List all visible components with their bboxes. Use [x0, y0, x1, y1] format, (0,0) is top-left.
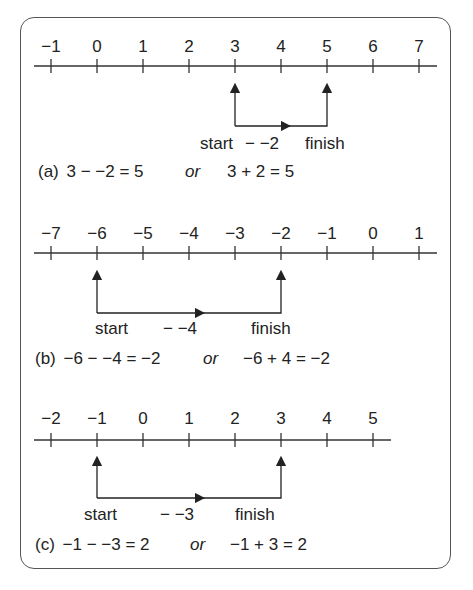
step-label: − −3: [160, 505, 194, 524]
tick-label: −2: [41, 409, 60, 428]
start-label: start: [200, 134, 233, 153]
tick-label: 7: [414, 37, 423, 56]
tick-label: 1: [414, 224, 423, 243]
panel-c: −2 −1 0 1 2 3 4 5 start − −3 finish (c) …: [34, 409, 391, 554]
caption-b: (b) −6 − −4 = −2 or −6 + 4 = −2: [35, 349, 330, 368]
tick-label: −1: [87, 409, 106, 428]
caption-expr2: −1 + 3 = 2: [230, 535, 307, 554]
caption-prefix: (b): [35, 349, 56, 368]
jump-arrow: [97, 461, 281, 498]
finish-label: finish: [235, 505, 275, 524]
caption-prefix: (c): [35, 535, 55, 554]
tick-label: 4: [276, 37, 285, 56]
tick-label: 1: [138, 37, 147, 56]
step-label: − −2: [245, 134, 279, 153]
panel-b: −7 −6 −5 −4 −3 −2 −1 0 1 start − −4 fini…: [34, 224, 437, 368]
finish-label: finish: [305, 134, 345, 153]
tick-label: −6: [87, 224, 106, 243]
caption-expr1: 3 − −2 = 5: [67, 162, 144, 181]
jump-arrow: [235, 88, 327, 126]
tick-label: 3: [276, 409, 285, 428]
tick-label: 3: [230, 37, 239, 56]
tick-label: 4: [322, 409, 331, 428]
caption-expr2: −6 + 4 = −2: [243, 349, 330, 368]
tick-label: 0: [368, 224, 377, 243]
caption-c: (c) −1 − −3 = 2 or −1 + 3 = 2: [35, 535, 307, 554]
tick-label: 0: [138, 409, 147, 428]
caption-expr1: −6 − −4 = −2: [64, 349, 161, 368]
tick-label: 2: [184, 37, 193, 56]
tick-label: −3: [225, 224, 244, 243]
step-label: − −4: [163, 319, 197, 338]
start-label: start: [95, 319, 128, 338]
caption-or: or: [203, 349, 219, 368]
tick-label: −1: [317, 224, 336, 243]
caption-expr2: 3 + 2 = 5: [227, 162, 294, 181]
tick-label: −5: [133, 224, 152, 243]
tick-label: 1: [184, 409, 193, 428]
tick-label: 2: [230, 409, 239, 428]
tick-label: −4: [179, 224, 198, 243]
number-lines-figure: −1 0 1 2 3 4 5 6 7 start − −2 finish (a)…: [0, 0, 473, 590]
tick-label: −1: [41, 37, 60, 56]
start-label: start: [84, 505, 117, 524]
tick-label: 5: [322, 37, 331, 56]
caption-or: or: [185, 162, 201, 181]
tick-label: −2: [271, 224, 290, 243]
caption-a: (a) 3 − −2 = 5 or 3 + 2 = 5: [38, 162, 294, 181]
caption-or: or: [190, 535, 206, 554]
tick-label: 6: [368, 37, 377, 56]
caption-prefix: (a): [38, 162, 59, 181]
jump-arrow: [97, 275, 281, 313]
tick-label: 5: [368, 409, 377, 428]
panel-a: −1 0 1 2 3 4 5 6 7 start − −2 finish (a)…: [34, 37, 437, 181]
finish-label: finish: [251, 319, 291, 338]
tick-label: −7: [41, 224, 60, 243]
caption-expr1: −1 − −3 = 2: [63, 535, 150, 554]
tick-label: 0: [92, 37, 101, 56]
